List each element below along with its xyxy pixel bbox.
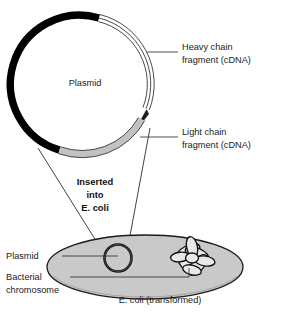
plasmid-transformation-diagram: Plasmid Heavy chain fragment (cDNA) Ligh…: [0, 0, 285, 316]
heavy-chain-label-line1: Heavy chain: [182, 42, 233, 52]
cell-plasmid-label: Plasmid: [6, 251, 39, 261]
plasmid-center-label: Plasmid: [69, 78, 102, 88]
heavy-chain-fragment-arc: [98, 15, 154, 110]
bacterial-chromosome-label-line1: Bacterial: [6, 272, 42, 282]
transfer-note: Inserted into E. coli: [77, 176, 114, 213]
bacterial-chromosome-label-line2: chromosome: [6, 285, 59, 295]
light-chain-fragment-arc: [58, 118, 145, 158]
heavy-chain-label-line2: fragment (cDNA): [182, 55, 251, 65]
heavy-chain-label: Heavy chain fragment (cDNA): [182, 42, 251, 65]
transfer-note-line3: E. coli: [81, 202, 109, 213]
transfer-note-line2: into: [86, 189, 103, 200]
light-chain-label-line2: fragment (cDNA): [182, 140, 251, 150]
ecoli-cell-caption: E. coli (transformed): [119, 295, 202, 305]
ecoli-cell: [47, 235, 243, 299]
light-chain-label: Light chain fragment (cDNA): [182, 127, 251, 150]
light-chain-label-line1: Light chain: [182, 127, 226, 137]
transfer-note-line1: Inserted: [77, 176, 114, 187]
